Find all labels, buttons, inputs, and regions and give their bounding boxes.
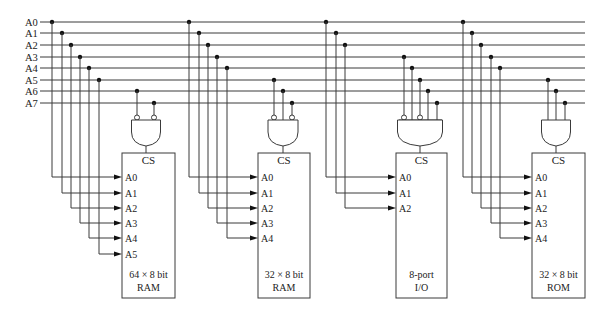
and-gate xyxy=(398,55,443,153)
pin-label-a0: A0 xyxy=(125,172,137,183)
chip-ram64: CS64 × 8 bitRAMA0A1A2A3A4A5 xyxy=(50,20,175,298)
arrow-icon xyxy=(114,236,122,241)
pin-label-a0: A0 xyxy=(261,172,273,183)
circuit-canvas: A0A1A2A3A4A5A6A7CS64 × 8 bitRAMA0A1A2A3A… xyxy=(0,0,610,318)
pin-label-a0: A0 xyxy=(535,172,547,183)
pin-label-a2: A2 xyxy=(261,203,273,214)
arrow-icon xyxy=(250,206,258,211)
arrow-icon xyxy=(388,175,396,180)
bus-label-a1: A1 xyxy=(25,28,38,39)
and-gate xyxy=(542,78,571,153)
chip-rom32: CS32 × 8 bitROMA0A1A2A3A4 xyxy=(461,20,585,298)
chip-select-label: CS xyxy=(277,154,290,166)
chip-size-label: 32 × 8 bit xyxy=(539,269,578,280)
arrow-icon xyxy=(524,175,532,180)
arrow-icon xyxy=(388,206,396,211)
chip-size-label: 32 × 8 bit xyxy=(265,269,304,280)
address-wire xyxy=(481,45,526,208)
chip-type-label: RAM xyxy=(137,282,160,293)
pin-label-a1: A1 xyxy=(399,188,411,199)
arrow-icon xyxy=(114,252,122,257)
inverter-bubble-icon xyxy=(290,115,295,120)
address-wire xyxy=(500,68,526,238)
chip-size-label: 8-port xyxy=(409,269,434,280)
and-gate-icon xyxy=(132,120,161,146)
chip-type-label: RAM xyxy=(273,282,296,293)
arrow-icon xyxy=(114,175,122,180)
arrow-icon xyxy=(524,191,532,196)
address-wire xyxy=(71,45,116,208)
arrow-icon xyxy=(250,175,258,180)
chip-ram32: CS32 × 8 bitRAMA0A1A2A3A4 xyxy=(187,20,310,298)
arrow-icon xyxy=(114,191,122,196)
address-wire xyxy=(217,57,252,223)
address-decoder-diagram: A0A1A2A3A4A5A6A7CS64 × 8 bitRAMA0A1A2A3A… xyxy=(0,0,610,318)
and-gate-icon xyxy=(542,120,571,146)
pin-label-a3: A3 xyxy=(125,218,137,229)
chip-type-label: I/O xyxy=(415,282,428,293)
bus-label-a6: A6 xyxy=(25,86,38,97)
arrow-icon xyxy=(524,236,532,241)
arrow-icon xyxy=(524,206,532,211)
bus-label-a5: A5 xyxy=(25,75,38,86)
bus-label-a2: A2 xyxy=(25,40,38,51)
address-wire xyxy=(99,80,116,254)
chip-size-label: 64 × 8 bit xyxy=(129,269,168,280)
address-wire xyxy=(491,57,526,223)
and-gate xyxy=(268,78,298,153)
arrow-icon xyxy=(114,221,122,226)
pin-label-a3: A3 xyxy=(535,218,547,229)
pin-label-a1: A1 xyxy=(125,188,137,199)
address-wire xyxy=(227,68,252,238)
chip-select-label: CS xyxy=(552,154,565,166)
arrow-icon xyxy=(524,221,532,226)
arrow-icon xyxy=(250,191,258,196)
arrow-icon xyxy=(250,236,258,241)
chip-select-label: CS xyxy=(415,154,428,166)
chip-select-label: CS xyxy=(142,154,155,166)
pin-label-a0: A0 xyxy=(399,172,411,183)
pin-label-a2: A2 xyxy=(125,203,137,214)
bus-label-a3: A3 xyxy=(25,52,38,63)
inverter-bubble-icon xyxy=(152,115,157,120)
chip-io8: CS8-portI/OA0A1A2 xyxy=(324,20,447,298)
and-gate-icon xyxy=(398,120,443,146)
inverter-bubble-icon xyxy=(272,115,277,120)
pin-label-a1: A1 xyxy=(535,188,547,199)
bus-label-a7: A7 xyxy=(25,98,38,109)
chip-type-label: ROM xyxy=(547,282,570,293)
address-wire xyxy=(89,68,116,238)
pin-label-a2: A2 xyxy=(399,203,411,214)
pin-label-a5: A5 xyxy=(125,249,137,260)
arrow-icon xyxy=(250,221,258,226)
bus-label-a0: A0 xyxy=(25,17,38,28)
inverter-bubble-icon xyxy=(135,115,140,120)
address-bus: A0A1A2A3A4A5A6A7 xyxy=(25,17,585,109)
pin-label-a4: A4 xyxy=(125,233,137,244)
address-wire xyxy=(208,45,252,208)
inverter-bubble-icon xyxy=(418,115,423,120)
arrow-icon xyxy=(114,206,122,211)
and-gate-icon xyxy=(268,120,298,146)
pin-label-a1: A1 xyxy=(261,188,273,199)
and-gate xyxy=(132,89,161,153)
arrow-icon xyxy=(388,191,396,196)
pin-label-a3: A3 xyxy=(261,218,273,229)
inverter-bubble-icon xyxy=(402,115,407,120)
pin-label-a4: A4 xyxy=(535,233,547,244)
bus-label-a4: A4 xyxy=(25,63,39,74)
pin-label-a4: A4 xyxy=(261,233,273,244)
pin-label-a2: A2 xyxy=(535,203,547,214)
address-wire xyxy=(345,45,390,208)
